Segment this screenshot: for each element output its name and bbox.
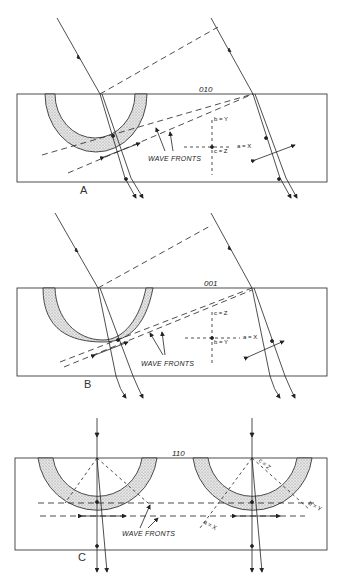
face-label-a: 010 (199, 85, 212, 94)
axis-horizontal-a: a = X (237, 143, 251, 149)
face-label-c: 110 (172, 449, 185, 458)
wave-fronts-label-b: WAVE FRONTS (141, 360, 194, 367)
wave-fronts-label-c: WAVE FRONTS (122, 530, 175, 537)
axis-center-b: b = Y (214, 339, 228, 345)
panel-label-a: A (80, 184, 87, 196)
optics-diagram (0, 0, 345, 580)
wave-surface-shell-a (45, 94, 147, 152)
face-label-b: 001 (204, 279, 217, 288)
axis-center-a: c = Z (214, 148, 228, 154)
axis-horizontal-b: a = X (243, 334, 257, 340)
wave-fronts-label-a: WAVE FRONTS (148, 155, 201, 162)
wave-surface-shell-b (43, 288, 153, 342)
panel-label-b: B (84, 378, 91, 390)
panel-label-c: C (78, 551, 86, 563)
axis-vertical-a: b = Y (214, 116, 228, 122)
panel-b (17, 213, 327, 398)
panel-c (15, 418, 327, 572)
panel-a (17, 18, 327, 198)
axis-vertical-b: c = Z (214, 310, 228, 316)
